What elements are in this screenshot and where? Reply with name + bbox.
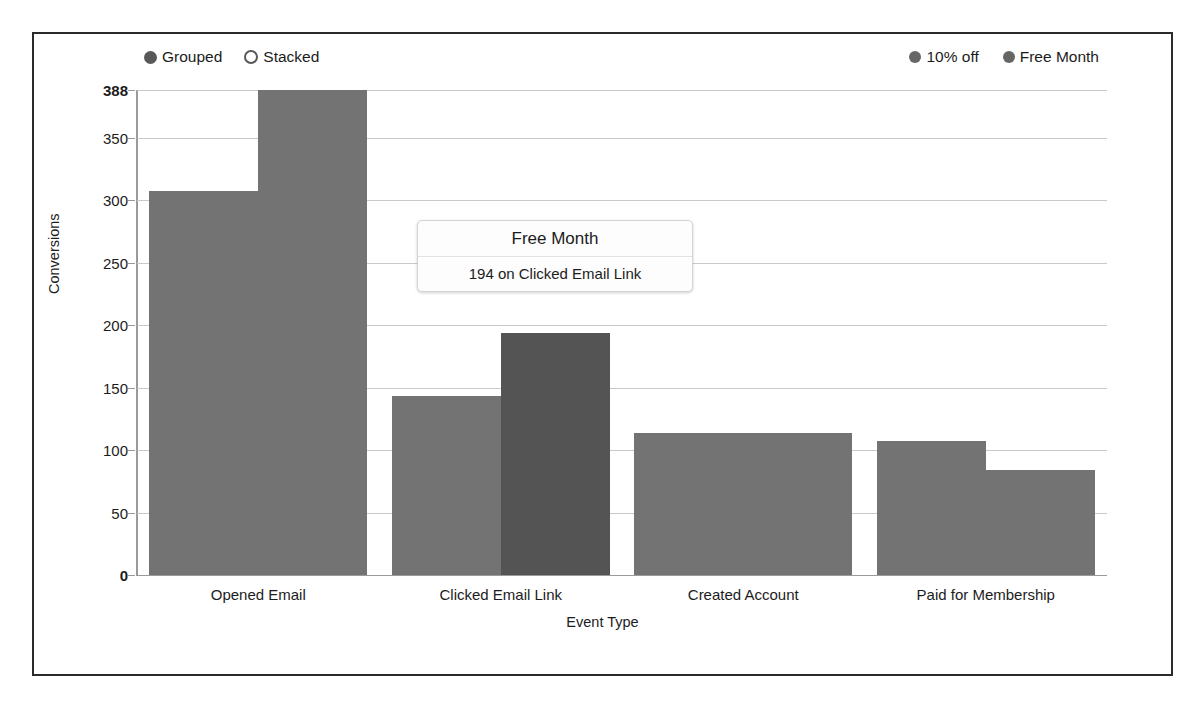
legend-swatch-icon — [909, 51, 921, 63]
radio-label-stacked: Stacked — [263, 48, 319, 66]
legend-item-10-percent-off[interactable]: 10% off — [909, 48, 978, 66]
y-axis-tick-mark — [128, 513, 135, 514]
x-axis-category-label: Paid for Membership — [917, 586, 1055, 603]
layout-radio-group: Grouped Stacked — [144, 48, 319, 66]
chart-header-row: Grouped Stacked 10% off Free Month — [34, 48, 1171, 74]
gridline — [137, 575, 1107, 576]
y-axis-tick-label: 200 — [103, 317, 128, 334]
legend: 10% off Free Month — [909, 48, 1099, 66]
y-axis-tick-mark — [128, 575, 135, 576]
legend-label-10-percent-off: 10% off — [926, 48, 978, 66]
x-axis-category-label: Clicked Email Link — [439, 586, 562, 603]
radio-filled-icon — [144, 51, 157, 64]
y-axis-tick-mark — [128, 388, 135, 389]
y-axis-tick-label: 300 — [103, 192, 128, 209]
y-axis-tick-label: 50 — [111, 504, 128, 521]
y-axis-tick-mark — [128, 325, 135, 326]
bar[interactable] — [743, 433, 852, 576]
bar[interactable] — [392, 396, 501, 575]
y-axis-tick-label: 250 — [103, 254, 128, 271]
y-axis-ticks: 050100150200250300350388 — [34, 34, 128, 674]
tooltip-title: Free Month — [418, 221, 692, 257]
radio-option-stacked[interactable]: Stacked — [244, 48, 319, 66]
bar[interactable] — [986, 470, 1095, 575]
x-axis-category-label: Created Account — [688, 586, 799, 603]
y-axis-tick-label: 0 — [120, 567, 128, 584]
y-axis-tick-mark — [128, 90, 135, 91]
legend-swatch-icon — [1003, 51, 1015, 63]
radio-label-grouped: Grouped — [162, 48, 222, 66]
radio-hollow-icon — [244, 50, 258, 64]
tooltip-body: 194 on Clicked Email Link — [418, 257, 692, 291]
bar[interactable] — [634, 433, 743, 576]
legend-item-free-month[interactable]: Free Month — [1003, 48, 1099, 66]
bar[interactable] — [149, 191, 258, 575]
plot-area — [137, 90, 1107, 575]
x-axis-category-label: Opened Email — [211, 586, 306, 603]
tooltip: Free Month 194 on Clicked Email Link — [417, 220, 693, 292]
y-axis-tick-label: 350 — [103, 129, 128, 146]
bar[interactable] — [501, 333, 610, 576]
y-axis-tick-mark — [128, 263, 135, 264]
y-axis-tick-mark — [128, 450, 135, 451]
legend-label-free-month: Free Month — [1020, 48, 1099, 66]
bar[interactable] — [877, 441, 986, 575]
radio-option-grouped[interactable]: Grouped — [144, 48, 222, 66]
y-axis-tick-label: 100 — [103, 442, 128, 459]
y-axis-tick-label: 150 — [103, 379, 128, 396]
y-axis-tick-label: 388 — [103, 82, 128, 99]
bar[interactable] — [258, 90, 367, 575]
y-axis-tick-mark — [128, 138, 135, 139]
x-axis-title: Event Type — [34, 614, 1171, 630]
chart-frame: Grouped Stacked 10% off Free Month Conve… — [32, 32, 1173, 676]
y-axis-tick-mark — [128, 200, 135, 201]
